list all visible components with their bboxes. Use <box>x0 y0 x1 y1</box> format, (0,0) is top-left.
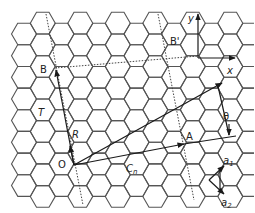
hexagon-cell <box>105 34 130 56</box>
hexagon-cell <box>105 12 130 34</box>
hexagon-cell <box>105 99 130 121</box>
label-x-axis: x <box>226 65 233 76</box>
hexagon-lattice <box>12 12 255 207</box>
hexagon-cell <box>218 12 243 34</box>
hexagon-cell <box>30 121 55 143</box>
hexagon-cell <box>105 77 130 99</box>
hexagon-cell <box>143 142 168 164</box>
label-Cn: Cn <box>126 163 137 176</box>
hexagon-cell <box>143 164 168 186</box>
hexagon-cell <box>68 164 93 186</box>
hexagon-cell <box>68 77 93 99</box>
hexagon-cell <box>30 142 55 164</box>
hexagon-cell <box>180 56 205 78</box>
hexagon-cell <box>180 186 205 208</box>
hexagon-cell <box>237 131 255 153</box>
hexagon-cell <box>218 77 243 99</box>
hexagon-cell <box>105 56 130 78</box>
hexagon-cell <box>105 186 130 208</box>
label-B-prime: B' <box>170 36 180 47</box>
hexagon-cell <box>30 12 55 34</box>
label-a2: a2 <box>221 197 232 210</box>
label-a1: a1 <box>223 155 234 168</box>
hexagon-cell <box>30 186 55 208</box>
hexagon-cell <box>237 45 255 67</box>
hexagon-cell <box>68 56 93 78</box>
vector-long-diagonal <box>74 83 222 165</box>
hexagon-cell <box>143 186 168 208</box>
hexagon-cell <box>218 121 243 143</box>
hexagon-cell <box>143 99 168 121</box>
hexagon-cell <box>237 23 255 45</box>
hexagon-cell <box>218 34 243 56</box>
hexagon-cell <box>105 121 130 143</box>
hexagon-cell <box>143 121 168 143</box>
label-B: B <box>40 64 47 75</box>
hexagon-cell <box>180 142 205 164</box>
hexagon-cell <box>237 175 255 197</box>
hexagon-cell <box>237 153 255 175</box>
label-y-axis: y <box>187 13 195 24</box>
vector-a1 <box>209 166 224 180</box>
hexagon-cell <box>143 12 168 34</box>
hexagon-cell <box>30 77 55 99</box>
hexagon-cell <box>237 110 255 132</box>
label-R: R <box>72 129 79 140</box>
hexagon-cell <box>180 99 205 121</box>
hexagon-cell <box>237 88 255 110</box>
hexagon-cell <box>68 99 93 121</box>
label-O: O <box>58 159 66 170</box>
hexagon-cell <box>68 12 93 34</box>
hexagon-cell <box>237 67 255 89</box>
label-T: T <box>38 107 45 118</box>
hexagon-cell <box>180 164 205 186</box>
hexagon-cell <box>30 164 55 186</box>
hexagon-cell <box>143 77 168 99</box>
label-theta: θ <box>223 111 229 122</box>
hexagon-cell <box>180 77 205 99</box>
honeycomb-lattice-diagram: O A B B' T R Cn y x θ a1 a2 <box>0 0 254 213</box>
hexagon-cell <box>180 34 205 56</box>
hexagon-cell <box>68 34 93 56</box>
label-A: A <box>186 131 193 142</box>
dotted-line-OB-extension <box>46 14 83 205</box>
